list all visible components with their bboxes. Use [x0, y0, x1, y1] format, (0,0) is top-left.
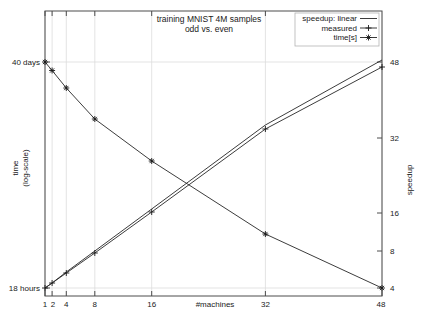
chart-container: 1 2 4 8 16 32 48 #machines 40 days 18 ho… — [0, 0, 425, 325]
x-tick-label-16: 16 — [147, 300, 156, 309]
y-axis-left-tickmarks — [45, 62, 50, 288]
y-left-tick-label-18hours: 18 hours — [9, 284, 40, 293]
y-right-tick-label-48: 48 — [390, 58, 399, 67]
series-time — [42, 59, 385, 291]
y-right-tick-label-16: 16 — [390, 209, 399, 218]
y-axis-right-tickmarks — [377, 62, 382, 288]
chart-title-line1: training MNIST 4M samples — [157, 14, 262, 24]
y-axis-right-title: speedup — [405, 164, 414, 195]
x-tick-label-2: 2 — [51, 300, 56, 309]
y-left-tick-label-40days: 40 days — [12, 58, 40, 67]
x-tick-label-4: 4 — [64, 300, 69, 309]
x-tick-label-48: 48 — [377, 300, 386, 309]
x-tick-label-1: 1 — [43, 300, 48, 309]
y-right-tick-label-4: 4 — [390, 284, 395, 293]
x-axis-title: #machines — [196, 300, 235, 309]
chart-title-subtitle: odd vs. even — [185, 24, 233, 34]
y-right-tick-label-8: 8 — [390, 247, 395, 256]
chart-legend: speedup: linear measured time[s] — [295, 13, 379, 46]
y-axis-left-title-line1: time — [11, 160, 20, 176]
legend-sample-time — [360, 35, 377, 41]
x-tick-label-8: 8 — [93, 300, 98, 309]
legend-label-measured: measured — [321, 24, 357, 33]
speedup-vs-machines-chart: 1 2 4 8 16 32 48 #machines 40 days 18 ho… — [0, 0, 425, 325]
horizontal-gridlines — [45, 62, 382, 288]
legend-label-time: time[s] — [333, 33, 357, 42]
series-measured — [42, 64, 385, 291]
x-tick-label-32: 32 — [261, 300, 270, 309]
series-measured-markers — [42, 64, 385, 291]
y-right-tick-label-32: 32 — [390, 134, 399, 143]
legend-sample-measured — [360, 25, 377, 31]
y-axis-left-title-line2: (log-scale) — [21, 149, 30, 187]
legend-label-speedup-linear: speedup: linear — [302, 14, 357, 23]
series-time-markers — [42, 59, 385, 291]
